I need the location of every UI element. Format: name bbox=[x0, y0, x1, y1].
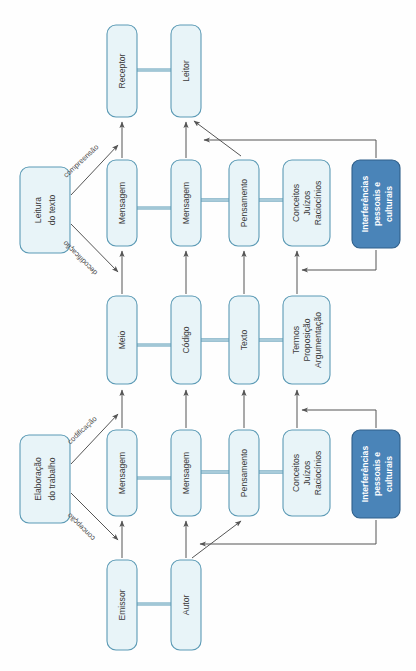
node-bot-conceitos-line3: Raciocínios bbox=[313, 451, 323, 495]
edge-label-codificacao: codificação bbox=[65, 414, 98, 446]
edge-label-decodificacao: decodificação bbox=[61, 239, 99, 277]
edge-label-concepcao: concepção bbox=[65, 511, 97, 543]
group-elaboracao-do-trabalho: Elaboração do trabalho bbox=[20, 435, 70, 523]
node-leitor-label: Leitor bbox=[181, 60, 191, 82]
arrow-interferencias-top-to-conceitos bbox=[302, 250, 376, 270]
group-sender-pair: Emissor Autor bbox=[107, 560, 201, 650]
flowchart-svg: Receptor Leitor Mensagem Mensagem Pensam… bbox=[0, 0, 416, 671]
node-emissor-label: Emissor bbox=[117, 589, 127, 620]
group-leitura-do-texto: Leitura do texto bbox=[20, 167, 70, 253]
edge-label-compreensao: compreensão bbox=[62, 142, 101, 179]
diagram-canvas: Receptor Leitor Mensagem Mensagem Pensam… bbox=[0, 0, 416, 671]
group-interferencias-top: Interferências pessoais e culturais bbox=[352, 160, 400, 248]
node-leitura-do-texto-line1: Leitura bbox=[33, 197, 43, 223]
node-top-mensagem-2-label: Mensagem bbox=[181, 182, 191, 225]
group-interferencias-bottom: Interferências pessoais e culturais bbox=[352, 430, 400, 518]
node-termos-line3: Argumentação bbox=[313, 312, 323, 368]
group-row-production: Mensagem Mensagem Pensamento Conceitos J… bbox=[107, 430, 330, 516]
node-bot-pensamento-label: Pensamento bbox=[239, 449, 249, 497]
node-interferencias-top-line1: Interferências bbox=[360, 176, 370, 233]
node-elaboracao-line1: Elaboração bbox=[33, 457, 43, 501]
node-receptor-label: Receptor bbox=[117, 53, 127, 88]
arrow-autor-to-pensamento bbox=[192, 521, 241, 558]
node-top-mensagem-1-label: Mensagem bbox=[117, 182, 127, 225]
node-bot-conceitos-line2: Juízos bbox=[302, 461, 312, 486]
node-interferencias-bottom-line1: Interferências bbox=[360, 446, 370, 503]
node-top-conceitos-line1: Conceitos bbox=[291, 184, 301, 222]
node-codigo-label: Código bbox=[181, 326, 191, 353]
node-interferencias-top-line3: culturais bbox=[384, 186, 394, 222]
node-autor-label: Autor bbox=[181, 595, 191, 616]
node-elaboracao-line2: do trabalho bbox=[47, 457, 57, 500]
node-interferencias-bottom-line3: culturais bbox=[384, 456, 394, 492]
node-bot-mensagem-1-label: Mensagem bbox=[117, 452, 127, 495]
arrow-interferencias-top-to-leitor bbox=[204, 140, 376, 158]
node-top-pensamento-label: Pensamento bbox=[239, 179, 249, 227]
node-top-conceitos-line2: Juízos bbox=[302, 191, 312, 216]
group-row-channel: Meio Código Texto Termos Proposição Argu… bbox=[107, 296, 330, 384]
node-interferencias-top-line2: pessoais e bbox=[372, 182, 382, 226]
node-leitura-do-texto-line2: do texto bbox=[47, 194, 57, 225]
node-leitura-do-texto[interactable] bbox=[20, 167, 70, 253]
arrow-interferencias-bottom-to-conceitos bbox=[302, 410, 376, 428]
node-texto-label: Texto bbox=[239, 330, 249, 351]
node-interferencias-bottom-line2: pessoais e bbox=[372, 452, 382, 496]
node-elaboracao-do-trabalho[interactable] bbox=[20, 435, 70, 523]
node-meio-label: Meio bbox=[117, 330, 127, 349]
node-bot-mensagem-2-label: Mensagem bbox=[181, 452, 191, 495]
node-termos-line2: Proposição bbox=[302, 318, 312, 361]
group-receiver-pair: Receptor Leitor bbox=[107, 25, 201, 117]
group-row-comprehension: Mensagem Mensagem Pensamento Conceitos J… bbox=[107, 160, 330, 246]
node-top-conceitos-line3: Raciocínios bbox=[313, 181, 323, 225]
node-bot-conceitos-line1: Conceitos bbox=[291, 454, 301, 492]
arrow-pensamento-to-leitor bbox=[194, 121, 241, 156]
node-termos-line1: Termos bbox=[291, 326, 301, 354]
